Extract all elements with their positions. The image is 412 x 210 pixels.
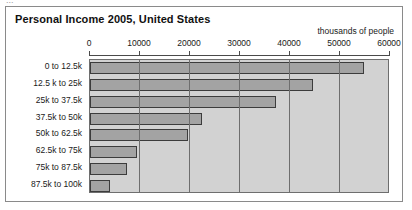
x-tick-label: 60000 — [377, 38, 401, 48]
category-label: 50k to 62.5k — [36, 128, 82, 138]
gridline — [339, 60, 340, 192]
plot-area — [89, 59, 389, 193]
y-axis-category-labels: 0 to 12.5k12.5 k to 25k25k to 37.5k37.5k… — [6, 59, 86, 193]
x-tick-label: 40000 — [277, 38, 301, 48]
bar — [90, 79, 313, 91]
x-tick-label: 50000 — [327, 38, 351, 48]
x-tick-mark — [189, 51, 190, 56]
x-axis-unit-label: thousands of people — [317, 26, 394, 36]
clipped-text-fragment: ... — [6, 0, 14, 5]
chart-panel: Personal Income 2005, United States thou… — [5, 6, 403, 202]
x-tick-mark — [389, 51, 390, 56]
gridline — [139, 60, 140, 192]
x-axis-tick-labels: 0100002000030000400005000060000 — [6, 38, 404, 50]
x-tick-label: 0 — [87, 38, 92, 48]
bar — [90, 113, 202, 125]
x-tick-mark — [289, 51, 290, 56]
category-label: 75k to 87.5k — [36, 162, 82, 172]
x-tick-mark — [89, 51, 90, 56]
category-label: 12.5 k to 25k — [33, 78, 82, 88]
category-label: 0 to 12.5k — [45, 61, 82, 71]
bar — [90, 62, 364, 74]
gridline — [239, 60, 240, 192]
chart-title: Personal Income 2005, United States — [15, 13, 210, 25]
bar — [90, 180, 110, 192]
bar — [90, 146, 137, 158]
gridline — [189, 60, 190, 192]
x-tick-mark — [239, 51, 240, 56]
bar — [90, 96, 276, 108]
gridline — [289, 60, 290, 192]
category-label: 25k to 37.5k — [36, 95, 82, 105]
x-tick-label: 10000 — [127, 38, 151, 48]
category-label: 87.5k to 100k — [31, 179, 82, 189]
x-tick-label: 30000 — [227, 38, 251, 48]
x-tick-mark — [339, 51, 340, 56]
bar — [90, 163, 127, 175]
x-tick-mark — [139, 51, 140, 56]
category-label: 62.5k to 75k — [36, 145, 82, 155]
x-tick-label: 20000 — [177, 38, 201, 48]
category-label: 37.5k to 50k — [36, 112, 82, 122]
